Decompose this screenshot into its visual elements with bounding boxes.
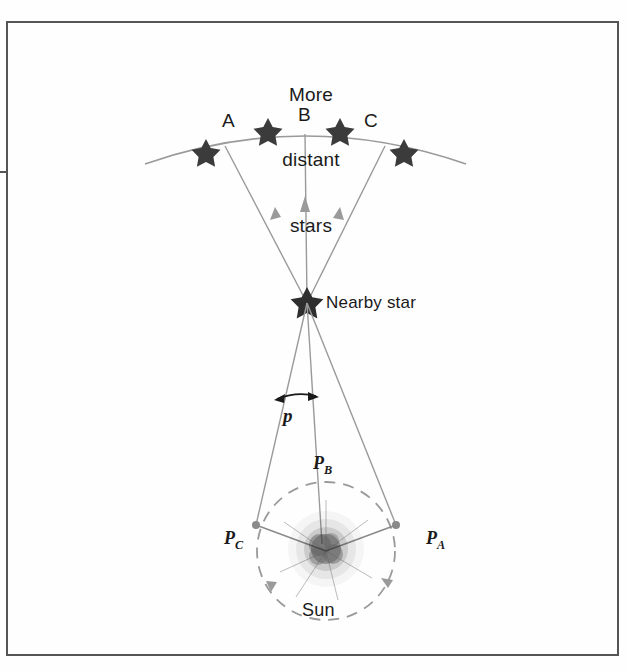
label-star-a: A: [222, 110, 235, 132]
label-parallax-angle: p: [283, 405, 293, 427]
label-pb-sub: B: [324, 462, 332, 476]
label-pc-letter: P: [224, 528, 235, 548]
label-position-pc: PC: [206, 507, 243, 572]
label-position-pa: PA: [408, 507, 445, 572]
orbit-arrow-right: [381, 578, 393, 588]
heading-line-1: More: [251, 84, 371, 106]
orbit-node-pc: [252, 521, 260, 529]
label-pa-sub: A: [437, 537, 445, 551]
more-distant-stars-heading: More distant stars: [251, 40, 371, 280]
label-star-b: B: [298, 104, 311, 126]
sun-starburst: [280, 500, 372, 600]
parallax-diagram-figure: More distant stars A B C Nearby star p P…: [0, 0, 627, 671]
label-pc-sub: C: [235, 537, 243, 551]
label-star-c: C: [364, 110, 378, 132]
label-sun: Sun: [302, 600, 335, 621]
label-pa-letter: P: [426, 528, 437, 548]
background-star-c: [390, 139, 419, 167]
orbit-node-pa: [392, 521, 400, 529]
heading-line-3: stars: [251, 215, 371, 237]
label-nearby-star: Nearby star: [326, 293, 416, 313]
heading-line-2: distant: [251, 149, 371, 171]
background-star-1: [192, 139, 221, 167]
label-position-pb: PB: [295, 432, 332, 497]
label-pb-letter: P: [313, 453, 324, 473]
line-star-to-pb: [307, 303, 322, 544]
